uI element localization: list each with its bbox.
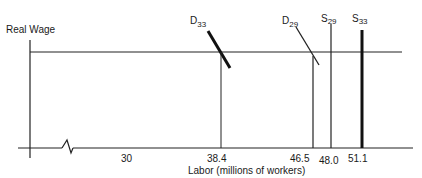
tick-30: 30 [121,153,133,164]
s29-label: S29 [321,13,337,26]
tick-51-1: 51.1 [348,153,368,164]
axis-break-icon [62,140,73,153]
tick-38-4: 38.4 [207,153,227,164]
y-axis-label: Real Wage [6,24,56,35]
tick-48-0: 48.0 [319,155,339,166]
d33-curve [208,31,230,68]
d29-curve [296,27,319,65]
tick-46-5: 46.5 [290,153,310,164]
d29-label: D29 [282,15,299,29]
labor-market-chart: Real Wage D33 D29 S29 S33 30 38.4 46.5 4… [0,0,422,178]
d33-label: D33 [190,15,207,29]
s33-label: S33 [352,13,368,26]
x-axis-label: Labor (millions of workers) [188,165,305,176]
